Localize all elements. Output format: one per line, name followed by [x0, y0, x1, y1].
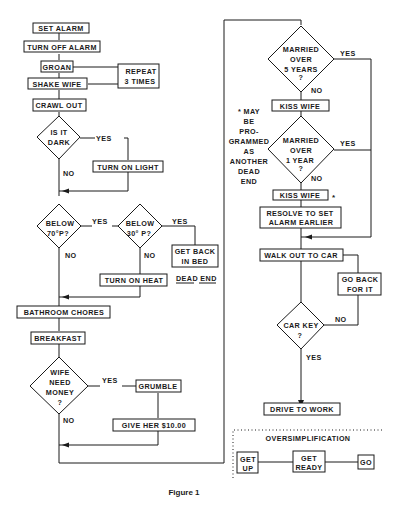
turn-on-light-label: TURN ON LIGHT	[97, 163, 159, 172]
bathroom-chores-label: BATHROOM CHORES	[24, 308, 105, 317]
car-key-label-2: ?	[298, 331, 303, 340]
footnote: * MAY BE PRO- GRAMMED AS ANOTHER DEAD EN…	[229, 107, 270, 186]
car-key-label-1: CAR KEY	[283, 321, 318, 330]
wife-need-money-label-3: MONEY	[46, 388, 74, 397]
go-back-label-1: GO BACK	[342, 275, 379, 284]
married-1-no: NO	[311, 174, 323, 183]
svg-text:AS: AS	[244, 147, 255, 156]
resolve-label-1: RESOLVE TO SET	[266, 209, 333, 218]
svg-text:READY: READY	[295, 463, 322, 472]
wife-need-money-no: NO	[63, 416, 75, 425]
resolve-label-2: ALARM EARLIER	[269, 218, 334, 227]
married-5-label-4: ?	[299, 73, 304, 82]
groan-label: GROAN	[43, 63, 72, 72]
repeat-label-1: REPEAT	[125, 67, 156, 76]
repeat-label-2: 3 TIMES	[125, 77, 156, 86]
drive-label: DRIVE TO WORK	[270, 405, 334, 414]
svg-text:* MAY: * MAY	[238, 107, 260, 116]
wife-need-money-label-4: ?	[58, 398, 63, 407]
is-it-dark-label-2: DARK	[48, 138, 71, 147]
is-it-dark-yes: YES	[96, 134, 112, 143]
below-30-label-2: 30° P?	[127, 229, 151, 238]
shake-wife-label: SHAKE WIFE	[32, 80, 81, 89]
wife-need-money-label-2: NEED	[49, 378, 71, 387]
svg-text:ANOTHER: ANOTHER	[230, 157, 269, 166]
oversimplification-panel: OVERSIMPLIFICATION GET UP GET READY GO	[233, 430, 383, 478]
asterisk-mark: *	[332, 193, 336, 202]
married-1-label-1: MARRIED	[283, 136, 319, 145]
below-30-yes: YES	[172, 217, 188, 226]
is-it-dark-label-1: IS IT	[50, 128, 67, 137]
svg-text:BE: BE	[244, 117, 255, 126]
car-key-yes: YES	[306, 353, 322, 362]
wife-need-money-yes: YES	[102, 376, 118, 385]
figure-caption: Figure 1	[168, 488, 200, 497]
kiss-wife-label-2: KISS WIFE	[280, 191, 320, 200]
svg-text:GRAMMED: GRAMMED	[229, 137, 270, 146]
get-back-in-bed-label-1: GET BACK	[175, 247, 216, 256]
below-70-label-2: 70°P?	[47, 229, 69, 238]
married-5-label-2: OVER	[290, 55, 312, 64]
breakfast-label: BREAKFAST	[34, 334, 82, 343]
get-back-in-bed-label-2: IN BED	[182, 257, 209, 266]
car-key-no: NO	[335, 315, 347, 324]
svg-text:DEAD: DEAD	[238, 167, 260, 176]
married-1-yes: YES	[340, 139, 356, 148]
wife-need-money-label-1: WIFE	[50, 368, 70, 377]
left-connectors	[59, 20, 301, 463]
married-1-label-4: ?	[299, 164, 304, 173]
give-her-label: GIVE HER $10.00	[122, 421, 186, 430]
svg-text:GET: GET	[301, 454, 317, 463]
set-alarm-label: SET ALARM	[38, 24, 83, 33]
svg-text:PRO-: PRO-	[239, 127, 259, 136]
oversimplification-title: OVERSIMPLIFICATION	[266, 434, 351, 443]
dead-end-label: DEAD END	[176, 274, 217, 283]
crawl-out-label: CRAWL OUT	[36, 101, 83, 110]
below-30-no: NO	[144, 251, 156, 260]
is-it-dark-no: NO	[63, 169, 75, 178]
turn-on-heat-label: TURN ON HEAT	[105, 276, 164, 285]
svg-text:UP: UP	[243, 464, 254, 473]
svg-text:GO: GO	[360, 458, 372, 467]
below-70-yes: YES	[92, 217, 108, 226]
kiss-wife-label-1: KISS WIFE	[280, 102, 320, 111]
below-70-label-1: BELOW	[46, 219, 75, 228]
married-1-label-2: OVER	[290, 146, 312, 155]
svg-text:END: END	[241, 177, 257, 186]
turn-off-alarm-label: TURN OFF ALARM	[27, 43, 97, 52]
married-5-no: NO	[311, 86, 323, 95]
below-30-label-1: BELOW	[126, 219, 155, 228]
svg-text:GET: GET	[240, 455, 256, 464]
married-5-yes: YES	[340, 49, 356, 58]
go-back-label-2: FOR IT	[347, 285, 373, 294]
married-5-label-1: MARRIED	[283, 45, 319, 54]
below-70-no: NO	[65, 251, 77, 260]
walk-out-label: WALK OUT TO CAR	[264, 251, 338, 260]
flowchart: SET ALARM TURN OFF ALARM GROAN SHAKE WIF…	[0, 0, 402, 509]
grumble-label: GRUMBLE	[138, 382, 177, 391]
